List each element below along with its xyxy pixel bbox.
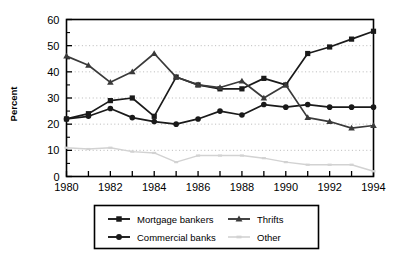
data-point-marker <box>64 116 70 122</box>
data-point-marker <box>108 106 114 112</box>
legend-label: Commercial banks <box>137 232 216 243</box>
data-point-marker <box>195 116 201 122</box>
data-point-marker <box>86 114 92 120</box>
data-point-marker <box>129 115 135 121</box>
x-tick-label-1994: 1994 <box>361 181 385 193</box>
x-axis-tick-labels: 19801982198419861988199019921994 <box>54 181 385 193</box>
data-point-marker <box>349 104 355 110</box>
x-tick-label-1986: 1986 <box>186 181 210 193</box>
data-point-marker <box>239 112 245 118</box>
y-tick-label-30: 30 <box>47 92 59 104</box>
x-tick-label-1984: 1984 <box>142 181 166 193</box>
data-point-marker <box>371 29 376 34</box>
legend-item-commercial-banks[interactable]: Commercial banks <box>108 232 216 243</box>
data-point-marker <box>305 51 310 56</box>
data-point-marker <box>108 98 113 103</box>
data-point-marker <box>116 234 122 240</box>
data-point-marker <box>240 154 244 156</box>
data-point-marker <box>151 50 158 56</box>
x-axis-ticks <box>67 171 374 177</box>
data-point-marker <box>217 108 223 114</box>
data-point-marker <box>306 164 310 166</box>
data-point-marker <box>174 161 178 163</box>
legend-item-thrifts[interactable]: Thrifts <box>228 214 284 225</box>
y-tick-label-40: 40 <box>47 66 59 78</box>
data-point-marker <box>64 147 68 149</box>
data-point-marker <box>63 53 70 59</box>
y-axis-ticks <box>67 20 73 177</box>
chart-figure: Percent 0102030405060 198019821984198619… <box>0 0 407 261</box>
data-point-marker <box>239 86 244 91</box>
x-tick-label-1982: 1982 <box>98 181 122 193</box>
y-axis-title: Percent <box>8 86 19 122</box>
data-point-marker <box>152 114 157 119</box>
x-tick-label-1990: 1990 <box>274 181 298 193</box>
legend-label: Other <box>257 232 281 243</box>
y-axis-tick-labels: 0102030405060 <box>47 14 59 183</box>
data-point-marker <box>196 154 200 156</box>
data-point-marker <box>261 102 267 108</box>
data-point-marker <box>152 152 156 154</box>
data-point-marker <box>236 236 241 239</box>
data-point-marker <box>262 157 266 159</box>
data-point-marker <box>239 78 246 84</box>
y-tick-label-50: 50 <box>47 40 59 52</box>
series-line <box>67 148 374 172</box>
legend-label: Mortgage bankers <box>137 214 214 225</box>
legend-item-mortgage-bankers[interactable]: Mortgage bankers <box>108 214 214 225</box>
data-point-marker <box>371 170 375 172</box>
data-point-marker <box>328 164 332 166</box>
y-tick-label-20: 20 <box>47 118 59 130</box>
data-point-marker <box>151 119 157 125</box>
data-point-marker <box>130 151 134 153</box>
data-point-marker <box>130 95 135 100</box>
data-point-marker <box>305 102 311 108</box>
legend-entries: Mortgage bankersThriftsCommercial banksO… <box>108 214 284 243</box>
data-point-marker <box>283 104 289 110</box>
y-tick-label-60: 60 <box>47 14 59 26</box>
data-point-marker <box>218 154 222 156</box>
data-point-marker <box>327 104 333 110</box>
data-point-marker <box>327 44 332 49</box>
gridlines <box>68 46 373 151</box>
data-point-marker <box>173 121 179 127</box>
x-tick-label-1980: 1980 <box>54 181 78 193</box>
y-tick-label-10: 10 <box>47 144 59 156</box>
x-tick-label-1988: 1988 <box>230 181 254 193</box>
data-point-marker <box>108 147 112 149</box>
legend-item-other[interactable]: Other <box>228 232 281 243</box>
data-point-marker <box>284 161 288 163</box>
data-point-marker <box>261 76 266 81</box>
data-point-marker <box>116 216 121 221</box>
data-point-marker <box>349 37 354 42</box>
data-point-marker <box>350 164 354 166</box>
data-series-layer <box>63 29 377 173</box>
line-chart: Percent 0102030405060 198019821984198619… <box>0 0 407 261</box>
x-tick-label-1992: 1992 <box>317 181 341 193</box>
data-point-marker <box>86 148 90 150</box>
y-axis-title-text: Percent <box>8 86 19 122</box>
legend-label: Thrifts <box>257 214 284 225</box>
data-point-marker <box>371 104 377 110</box>
